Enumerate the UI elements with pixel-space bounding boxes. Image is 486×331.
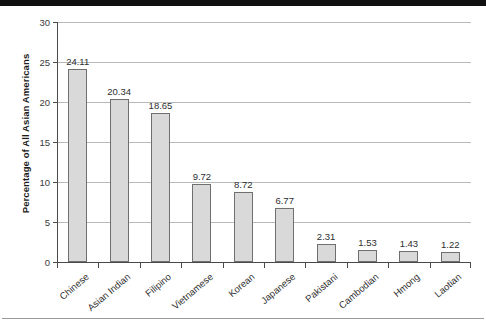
x-tick-label-text: Laotian (432, 271, 463, 299)
x-tick-mark (264, 263, 265, 268)
x-tick-mark (430, 263, 431, 268)
bar: 20.34 (110, 99, 129, 262)
bar-value-label: 20.34 (107, 86, 131, 97)
bar: 1.22 (441, 252, 460, 262)
bar: 1.53 (358, 250, 377, 262)
y-tick-label: 10 (39, 177, 50, 188)
x-tick-mark (305, 263, 306, 268)
y-tick-label: 25 (39, 57, 50, 68)
x-tick-mark (181, 263, 182, 268)
bar: 9.72 (192, 184, 211, 262)
x-tick-label-text: Cambodian (336, 271, 380, 311)
bar-value-label: 1.22 (441, 239, 460, 250)
gridline (57, 62, 471, 63)
y-tick-mark (53, 182, 58, 183)
bar-value-label: 24.11 (66, 56, 89, 67)
x-tick-mark (98, 263, 99, 268)
x-tick-label-text: Japanese (259, 271, 298, 306)
y-tick-label: 5 (45, 217, 50, 228)
bar: 24.11 (68, 69, 87, 262)
x-tick-label-text: Vietnamese (170, 271, 215, 312)
bar-value-label: 8.72 (234, 179, 253, 190)
y-tick-mark (53, 22, 58, 23)
x-tick-label-text: Pakistani (303, 271, 340, 304)
y-axis-title: Percentage of All Asian Americans (20, 24, 31, 244)
bar-value-label: 1.53 (358, 237, 377, 248)
x-tick-label-text: Filipino (143, 271, 173, 299)
bar: 8.72 (234, 192, 253, 262)
bar: 1.43 (399, 251, 418, 262)
x-tick-label-text: Chinese (57, 271, 91, 302)
x-tick-mark (140, 263, 141, 268)
x-tick-label-text: Korean (226, 271, 257, 299)
x-tick-mark (57, 263, 58, 268)
x-tick-mark (347, 263, 348, 268)
x-tick-label-text: Asian Indian (85, 271, 132, 313)
x-axis: ChineseAsian IndianFilipinoVietnameseKor… (57, 263, 471, 319)
y-tick-mark (53, 62, 58, 63)
y-tick-mark (53, 102, 58, 103)
bar-value-label: 18.65 (149, 100, 173, 111)
bar: 18.65 (151, 113, 170, 262)
page-divider-rule (2, 318, 484, 319)
y-tick-mark (53, 142, 58, 143)
x-tick-label-text: Hmong (391, 271, 422, 299)
bar-value-label: 2.31 (317, 231, 336, 242)
bar-value-label: 9.72 (193, 171, 212, 182)
bar: 6.77 (275, 208, 294, 262)
plot-area: 051015202530 24.1120.3418.659.728.726.77… (57, 22, 471, 262)
x-tick-mark (223, 263, 224, 268)
y-tick-label: 30 (39, 17, 50, 28)
x-tick-mark (470, 263, 471, 268)
y-tick-label: 20 (39, 97, 50, 108)
bar-chart-figure: Percentage of All Asian Americans 051015… (0, 6, 486, 318)
y-tick-mark (53, 222, 58, 223)
bar-value-label: 1.43 (400, 238, 419, 249)
bar-value-label: 6.77 (275, 195, 294, 206)
y-tick-label: 0 (45, 257, 50, 268)
x-tick-mark (388, 263, 389, 268)
bar: 2.31 (317, 244, 336, 262)
gridline (57, 22, 471, 23)
y-tick-label: 15 (39, 137, 50, 148)
